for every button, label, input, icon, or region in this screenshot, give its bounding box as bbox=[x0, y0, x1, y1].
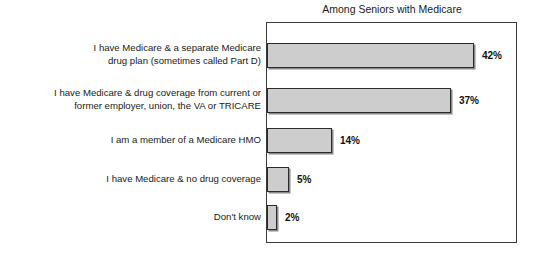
category-label-line2: former employer, union, the VA or TRICAR… bbox=[1, 99, 261, 112]
chart-title: Among Seniors with Medicare bbox=[266, 2, 518, 16]
bar-value-label: 14% bbox=[340, 135, 360, 146]
bar-container: 14% bbox=[267, 127, 360, 154]
bar-segment[interactable] bbox=[267, 43, 474, 68]
bar-segment[interactable] bbox=[267, 88, 451, 113]
bar-container: 2% bbox=[267, 204, 299, 231]
category-label: Don't know bbox=[1, 210, 261, 223]
bar-row: I have Medicare & drug coverage from cur… bbox=[0, 87, 551, 114]
category-label-line1: I have Medicare & drug coverage from cur… bbox=[1, 86, 261, 99]
bar-value-label: 2% bbox=[285, 212, 299, 223]
bar-container: 42% bbox=[267, 42, 502, 69]
bar-segment[interactable] bbox=[267, 167, 289, 192]
bar-value-label: 37% bbox=[459, 95, 479, 106]
category-label: I have Medicare & drug coverage from cur… bbox=[1, 86, 261, 112]
bar-container: 37% bbox=[267, 87, 479, 114]
bar-chart-figure: Among Seniors with Medicare I have Medic… bbox=[0, 0, 551, 259]
category-label-line1: I have Medicare & a separate Medicare bbox=[1, 41, 261, 54]
bar-row: I have Medicare & a separate Medicare dr… bbox=[0, 42, 551, 69]
bar-value-label: 5% bbox=[297, 174, 311, 185]
bar-segment[interactable] bbox=[267, 128, 332, 153]
bar-row: Don't know 2% bbox=[0, 204, 551, 231]
bar-row: I have Medicare & no drug coverage 5% bbox=[0, 166, 551, 193]
category-label-line1: I have Medicare & no drug coverage bbox=[1, 172, 261, 185]
category-label-line1: Don't know bbox=[1, 210, 261, 223]
category-label: I have Medicare & a separate Medicare dr… bbox=[1, 41, 261, 67]
bar-container: 5% bbox=[267, 166, 311, 193]
category-label-line1: I am a member of a Medicare HMO bbox=[1, 133, 261, 146]
category-label: I am a member of a Medicare HMO bbox=[1, 133, 261, 146]
bar-value-label: 42% bbox=[482, 50, 502, 61]
bar-segment[interactable] bbox=[267, 205, 277, 230]
category-label-line2: drug plan (sometimes called Part D) bbox=[1, 54, 261, 67]
category-label: I have Medicare & no drug coverage bbox=[1, 172, 261, 185]
bar-row: I am a member of a Medicare HMO 14% bbox=[0, 127, 551, 154]
